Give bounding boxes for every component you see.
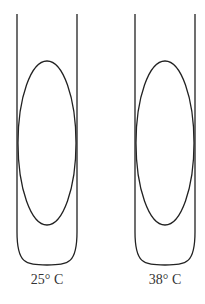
cell-ellipse bbox=[136, 61, 194, 225]
test-tube-outline bbox=[17, 14, 77, 265]
test-tube-outline bbox=[135, 14, 195, 265]
temperature-label-38: 38° C bbox=[149, 272, 181, 288]
temperature-label-25: 25° C bbox=[31, 272, 63, 288]
test-tube-diagram bbox=[0, 0, 205, 304]
tube-38-group bbox=[135, 14, 195, 265]
cell-ellipse bbox=[18, 61, 76, 225]
tube-25-group bbox=[17, 14, 77, 265]
